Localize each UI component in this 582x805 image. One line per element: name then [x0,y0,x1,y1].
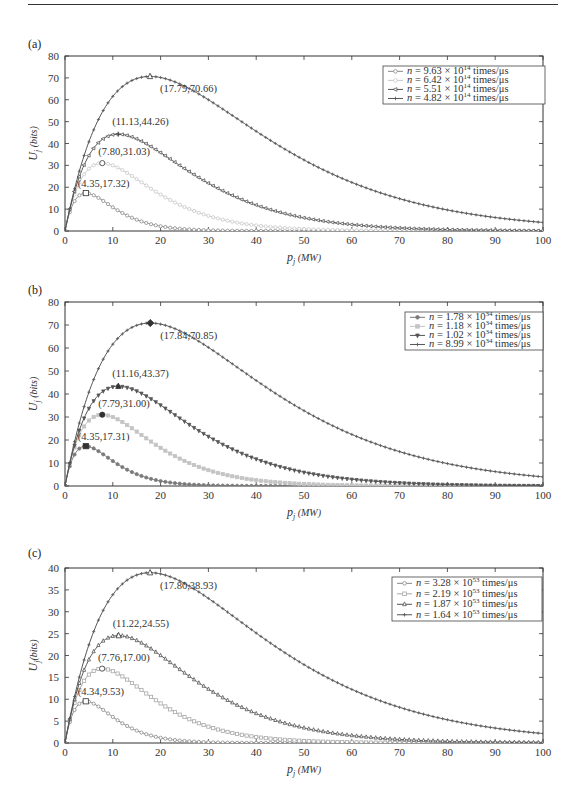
x-axis-title: pj (MW) [286,762,322,778]
legend-entry: n = 1.64 × 1053 times/μs [416,608,517,620]
y-tick-label: 50 [48,365,60,377]
legend-entry: n = 4.82 × 1014 times/μs [407,91,508,103]
peak-annotation: (7.76,17.00) [98,652,150,664]
x-tick-label: 20 [155,746,167,758]
legend-entry: n = 8.99 × 1034 times/μs [429,337,530,349]
x-tick-label: 30 [203,234,215,246]
legend: n = 9.63 × 1014 times/μsn = 6.42 × 1014 … [383,64,545,104]
y-tick-label: 40 [48,388,60,400]
x-tick-label: 60 [346,489,358,501]
x-tick-label: 80 [442,234,454,246]
x-tick-label: 90 [490,489,502,501]
y-tick-label: 30 [48,159,60,171]
y-tick-label: 40 [48,138,60,150]
x-tick-label: 0 [62,234,68,246]
y-tick-label: 20 [48,434,60,446]
x-tick-label: 80 [442,746,454,758]
y-tick-label: 20 [48,181,60,193]
y-tick-label: 35 [48,584,60,596]
peak-annotation: (4.34,9.53) [78,686,125,698]
x-tick-label: 0 [62,489,68,501]
legend: n = 3.28 × 1053 times/μsn = 2.19 × 1053 … [392,576,542,621]
y-tick-label: 80 [48,296,60,308]
y-tick-label: 30 [48,411,60,423]
y-tick-label: 10 [48,203,60,215]
peak-annotation: (11.16,43.37) [112,368,169,380]
y-tick-label: 80 [48,50,60,62]
y-tick-label: 10 [48,693,60,705]
y-tick-label: 0 [54,225,60,237]
x-tick-label: 30 [203,746,215,758]
y-tick-label: 20 [48,650,60,662]
y-axis-title: Uj (bits) [26,376,42,411]
x-tick-label: 100 [535,234,552,246]
peak-annotation: (17.80,38.93) [160,580,217,592]
y-tick-label: 30 [48,606,60,618]
x-tick-label: 50 [299,746,311,758]
x-tick-label: 10 [107,746,119,758]
x-tick-label: 20 [155,234,167,246]
legend-entry: n = 1.87 × 1053 times/μs [416,597,517,609]
legend-entry: n = 2.19 × 1053 times/μs [416,587,517,599]
x-tick-label: 60 [346,746,358,758]
x-tick-label: 10 [107,489,119,501]
figure-canvas: 010203040506070809010001020304050607080p… [0,0,582,805]
x-tick-label: 50 [299,489,311,501]
x-tick-label: 70 [394,234,406,246]
peak-annotation: (7.80,31.03) [98,146,150,158]
chart-panel-b: 010203040506070809010001020304050607080p… [26,296,552,521]
x-tick-label: 60 [346,234,358,246]
series-line [65,446,543,486]
x-tick-label: 80 [442,489,454,501]
chart-panel-a: 010203040506070809010001020304050607080p… [26,50,552,266]
x-axis-title: pj (MW) [286,250,322,266]
x-tick-label: 0 [62,746,68,758]
legend-entry: n = 3.28 × 1053 times/μs [416,576,517,588]
x-tick-label: 40 [251,746,263,758]
series-line [65,701,543,743]
y-tick-label: 40 [48,562,60,574]
peak-annotation: (4.35,17.31) [78,431,130,443]
y-tick-label: 60 [48,94,60,106]
x-tick-label: 40 [251,489,263,501]
x-tick-label: 20 [155,489,167,501]
y-tick-label: 70 [48,319,60,331]
x-tick-label: 30 [203,489,215,501]
y-tick-label: 10 [48,457,60,469]
peak-annotation: (4.35,17.32) [78,178,130,190]
peak-annotation: (17.84,70.85) [160,330,217,342]
x-tick-label: 100 [535,746,552,758]
series-line [65,193,543,231]
peak-annotation: (7.79,31.00) [98,398,150,410]
y-tick-label: 50 [48,116,60,128]
y-tick-label: 0 [54,737,60,749]
x-tick-label: 70 [394,746,406,758]
x-tick-label: 90 [490,746,502,758]
x-tick-label: 40 [251,234,263,246]
x-tick-label: 90 [490,234,502,246]
peak-annotation: (11.22,24.55) [113,618,170,630]
y-tick-label: 60 [48,342,60,354]
y-tick-label: 5 [54,715,60,727]
legend: n = 1.78 × 1034 times/μsn = 1.18 × 1034 … [405,310,543,350]
x-tick-label: 100 [535,489,552,501]
y-tick-label: 25 [48,628,60,640]
y-tick-label: 0 [54,480,60,492]
y-tick-label: 15 [48,671,60,683]
y-tick-label: 70 [48,72,60,84]
x-tick-label: 70 [394,489,406,501]
peak-annotation: (17.79,70.66) [160,83,217,95]
x-tick-label: 10 [107,234,119,246]
x-axis-title: pj (MW) [286,505,322,521]
chart-panel-c: 01020304050607080901000510152025303540pj… [26,562,552,778]
y-axis-title: Uj(bits) [26,639,42,672]
peak-annotation: (11.13,44.26) [112,116,169,128]
x-tick-label: 50 [299,234,311,246]
y-axis-title: Uj (bits) [26,126,42,161]
